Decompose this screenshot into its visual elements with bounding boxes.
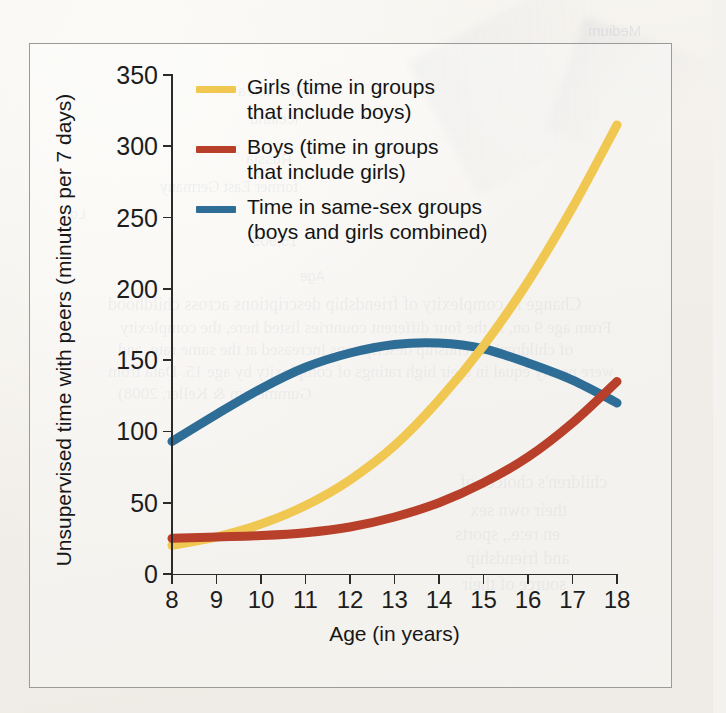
y-tick-mark: [163, 431, 172, 433]
x-tick-label: 13: [381, 586, 408, 614]
y-tick-label: 300: [0, 132, 158, 161]
x-tick-mark: [260, 575, 262, 584]
legend-item-same-sex: Time in same-sex groups (boys and girls …: [196, 195, 487, 244]
x-tick-mark: [527, 575, 529, 584]
legend-swatch-same-sex: [196, 206, 236, 213]
x-tick-mark: [616, 575, 618, 584]
y-tick-mark: [163, 359, 172, 361]
x-tick-label: 11: [293, 586, 318, 614]
y-tick-mark: [163, 502, 172, 504]
legend-swatch-boys: [196, 146, 236, 153]
x-tick-mark: [394, 575, 396, 584]
x-tick-label: 18: [604, 586, 631, 614]
y-tick-label: 50: [0, 488, 158, 517]
legend-label-girls: Girls (time in groups that include boys): [247, 75, 435, 124]
x-tick-label: 10: [248, 586, 275, 614]
legend-item-girls: Girls (time in groups that include boys): [196, 75, 487, 124]
x-tick-label: 12: [337, 586, 364, 614]
legend-label-same-sex: Time in same-sex groups (boys and girls …: [247, 195, 487, 244]
legend-swatch-girls: [196, 86, 236, 93]
x-tick-label: 8: [165, 586, 178, 614]
chart-legend: Girls (time in groups that include boys)…: [196, 75, 487, 255]
x-tick-mark: [438, 575, 440, 584]
y-axis-title: Unsupervised time with peers (minutes pe…: [52, 80, 76, 580]
x-tick-mark: [171, 575, 173, 584]
x-tick-label: 17: [559, 586, 586, 614]
y-tick-mark: [163, 145, 172, 147]
y-tick-mark: [163, 217, 172, 219]
x-tick-mark: [483, 575, 485, 584]
x-tick-mark: [572, 575, 574, 584]
y-tick-label: 0: [0, 560, 158, 589]
x-tick-label: 9: [210, 586, 223, 614]
x-tick-label: 15: [470, 586, 497, 614]
y-tick-label: 200: [0, 274, 158, 303]
x-tick-label: 14: [426, 586, 453, 614]
line-same-sex-groups: [172, 343, 617, 442]
y-tick-mark: [163, 288, 172, 290]
legend-label-boys: Boys (time in groups that include girls): [247, 135, 438, 184]
legend-item-boys: Boys (time in groups that include girls): [196, 135, 487, 184]
x-axis-title: Age (in years): [171, 622, 618, 646]
x-tick-mark: [349, 575, 351, 584]
y-tick-label: 250: [0, 203, 158, 232]
y-axis-line: [171, 74, 173, 575]
y-tick-mark: [163, 74, 172, 76]
x-tick-mark: [305, 575, 307, 584]
y-tick-label: 100: [0, 417, 158, 446]
y-tick-label: 150: [0, 346, 158, 375]
y-tick-label: 350: [0, 61, 158, 90]
x-tick-label: 16: [515, 586, 542, 614]
x-tick-mark: [216, 575, 218, 584]
